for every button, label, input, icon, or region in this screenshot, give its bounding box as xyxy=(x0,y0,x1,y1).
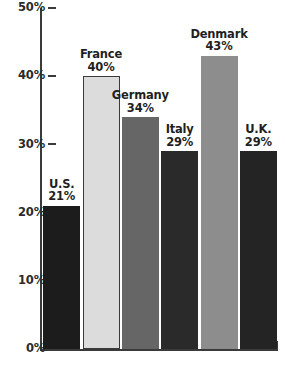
bar-value-label: 43% xyxy=(187,40,252,52)
bar-denmark[interactable] xyxy=(201,56,238,349)
bar-france[interactable] xyxy=(83,76,120,349)
bar-group[interactable]: Germany34% xyxy=(122,117,159,349)
bar-label-block: Denmark43% xyxy=(187,28,252,53)
bar-chart: 0%10%20%30%40%50% U.S.21%France40%German… xyxy=(0,0,285,365)
bar-germany[interactable] xyxy=(122,117,159,349)
bar-value-label: 29% xyxy=(226,136,285,148)
bar-u-s[interactable] xyxy=(43,206,80,349)
bar-italy[interactable] xyxy=(161,151,198,349)
bar-group[interactable]: Italy29% xyxy=(161,151,198,349)
bar-category-label: France xyxy=(69,48,134,60)
bar-category-label: Germany xyxy=(108,89,173,101)
bar-category-label: U.K. xyxy=(226,123,285,135)
bar-group[interactable]: U.K.29% xyxy=(240,151,277,349)
bar-value-label: 34% xyxy=(108,102,173,114)
plot-area: U.S.21%France40%Germany34%Italy29%Denmar… xyxy=(42,0,278,349)
bar-group[interactable]: France40% xyxy=(83,76,120,349)
bar-label-block: Germany34% xyxy=(108,89,173,114)
bar-u-k[interactable] xyxy=(240,151,277,349)
bar-group[interactable]: U.S.21% xyxy=(43,206,80,349)
bar-group[interactable]: Denmark43% xyxy=(201,56,238,349)
bar-label-block: U.K.29% xyxy=(226,123,285,148)
bar-value-label: 40% xyxy=(69,61,134,73)
bar-label-block: France40% xyxy=(69,48,134,73)
x-axis-line xyxy=(40,349,278,351)
